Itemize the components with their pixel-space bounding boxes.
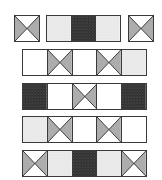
diagonal-cross-tile — [47, 117, 72, 142]
dark-stipple-tile — [72, 151, 97, 176]
light-stipple-tile — [47, 16, 71, 41]
tile-strip — [22, 116, 147, 143]
diagonal-cross-tile — [121, 151, 146, 176]
light-stipple-tile — [121, 50, 146, 75]
light-stipple-tile — [23, 117, 47, 142]
light-stipple-tile — [95, 16, 120, 41]
dark-stipple-tile — [23, 84, 47, 109]
tile-strip — [22, 83, 147, 110]
tile-strip — [46, 15, 121, 42]
blank-tile — [96, 84, 121, 109]
diagonal-cross-tile — [129, 16, 153, 41]
blank-tile — [121, 117, 146, 142]
diagonal-cross-tile — [96, 117, 121, 142]
diagonal-cross-tile — [23, 151, 47, 176]
dark-stipple-tile — [121, 84, 146, 109]
tile-strip — [22, 150, 147, 177]
diagonal-cross-tile — [72, 84, 97, 109]
diagonal-cross-tile — [96, 50, 121, 75]
light-stipple-tile — [96, 151, 121, 176]
blank-tile — [72, 50, 97, 75]
blank-tile — [47, 84, 72, 109]
tile-strip — [22, 49, 147, 76]
tile-strip — [14, 15, 40, 42]
dark-stipple-tile — [71, 16, 96, 41]
diagonal-cross-tile — [15, 16, 39, 41]
blank-tile — [23, 50, 47, 75]
tile-strip — [128, 15, 154, 42]
diagonal-cross-tile — [47, 50, 72, 75]
light-stipple-tile — [47, 151, 72, 176]
blank-tile — [72, 117, 97, 142]
